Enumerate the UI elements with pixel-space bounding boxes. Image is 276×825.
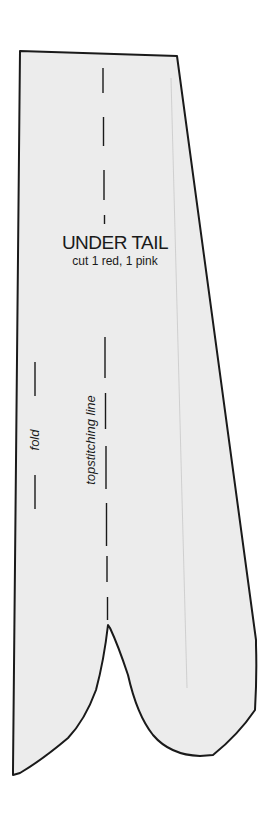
under-tail-pattern-outline	[0, 0, 276, 825]
piece-title: UNDER TAIL	[0, 233, 230, 253]
pattern-sheet: UNDER TAIL cut 1 red, 1 pink fold topsti…	[0, 0, 276, 825]
cutting-instructions: cut 1 red, 1 pink	[0, 255, 230, 268]
fold-label: fold	[28, 415, 42, 465]
topstitching-line-label: topstitching line	[84, 390, 98, 490]
pattern-piece-outline	[13, 51, 256, 775]
